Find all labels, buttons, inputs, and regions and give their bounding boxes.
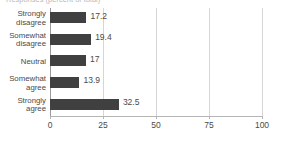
bar-row: 17 [50, 51, 262, 73]
category-label: Stronglydisagree [0, 10, 46, 27]
gridline [262, 8, 263, 116]
category-label: Stronglyagree [0, 97, 46, 114]
tick-mark [50, 116, 51, 119]
bar[interactable] [50, 55, 86, 66]
tick-label: 75 [204, 120, 213, 131]
bar-value-label: 32.5 [123, 97, 140, 108]
tick-mark [103, 116, 104, 119]
category-label-line: disagree [0, 40, 46, 49]
category-label-line: disagree [0, 19, 46, 28]
tick-mark [209, 116, 210, 119]
bar-row: 32.5 [50, 94, 262, 116]
category-label: Neutral [0, 58, 46, 67]
tick-label: 100 [255, 120, 269, 131]
bar-row: 17.2 [50, 8, 262, 30]
bar-value-label: 17 [90, 54, 99, 65]
bar[interactable] [50, 99, 119, 110]
bar-value-label: 17.2 [90, 11, 107, 22]
category-label-line: agree [0, 105, 46, 114]
tick-label: 0 [48, 120, 53, 131]
tick-label: 50 [151, 120, 160, 131]
tick-mark [262, 116, 263, 119]
bar-row: 13.9 [50, 73, 262, 95]
chart-title-fragment: Responses (percent of total) [6, 0, 156, 4]
bar-row: 19.4 [50, 30, 262, 52]
bar-value-label: 13.9 [83, 75, 100, 86]
bar[interactable] [50, 34, 91, 45]
tick-label: 25 [98, 120, 107, 131]
category-label: Somewhatagree [0, 75, 46, 92]
category-label-line: Neutral [0, 58, 46, 67]
bar[interactable] [50, 77, 79, 88]
plot-area: 17.219.41713.932.5 [50, 8, 262, 116]
tick-mark [156, 116, 157, 119]
bar-chart: Responses (percent of total) 17.219.4171… [0, 0, 288, 146]
category-label: Somewhatdisagree [0, 32, 46, 49]
bar[interactable] [50, 12, 86, 23]
bar-value-label: 19.4 [95, 32, 112, 43]
category-label-line: agree [0, 84, 46, 93]
